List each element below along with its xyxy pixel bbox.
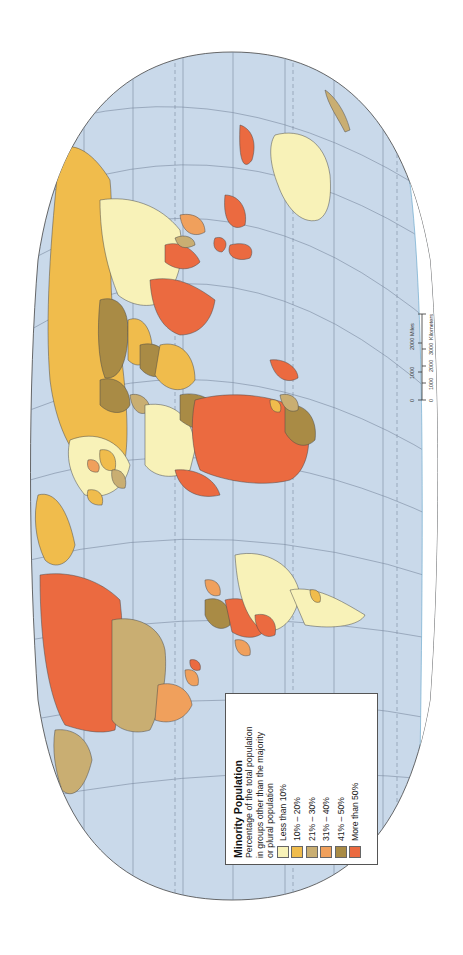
scale-miles-1000: 1000 <box>409 367 415 379</box>
legend-subtitle-line-1: Percentage of the total population <box>244 700 255 858</box>
legend-swatch <box>320 846 332 858</box>
scale-km-0: 0 <box>428 399 434 402</box>
legend-swatch <box>335 846 347 858</box>
scale-km-2000: 2000 <box>428 360 434 372</box>
legend-subtitle-line-3: or plural population <box>265 700 276 858</box>
legend-item: 21% – 30% <box>305 700 320 858</box>
legend-swatch <box>291 846 303 858</box>
legend-label: 41% – 50% <box>336 797 346 841</box>
legend-item: More than 50% <box>348 700 363 858</box>
legend-subtitle-line-2: in groups other than the majority <box>255 700 266 858</box>
legend-swatch <box>349 846 361 858</box>
legend-swatch <box>277 846 289 858</box>
legend-title: Minority Population <box>232 700 244 858</box>
legend-item: 41% – 50% <box>334 700 349 858</box>
scale-km-label: Kilometers <box>428 314 434 340</box>
legend-label: 31% – 40% <box>321 797 331 841</box>
legend-label: 10% – 20% <box>292 797 302 841</box>
legend-item: Less than 10% <box>276 700 291 858</box>
legend-swatch <box>306 846 318 858</box>
legend-item: 10% – 20% <box>290 700 305 858</box>
scale-miles-0: 0 <box>409 399 415 402</box>
scale-bar: 0 1000 2000 Miles 0 1000 2000 3000 Kilom… <box>405 270 439 410</box>
scale-km-3000: 3000 <box>428 343 434 355</box>
map-legend: Minority Population Percentage of the to… <box>225 693 378 865</box>
scale-miles-label: Miles <box>409 323 415 336</box>
legend-label: More than 50% <box>350 783 360 841</box>
legend-label: 21% – 30% <box>307 797 317 841</box>
legend-item: 31% – 40% <box>319 700 334 858</box>
scale-km-1000: 1000 <box>428 378 434 390</box>
legend-label: Less than 10% <box>278 784 288 841</box>
scale-miles-2000: 2000 <box>409 338 415 350</box>
